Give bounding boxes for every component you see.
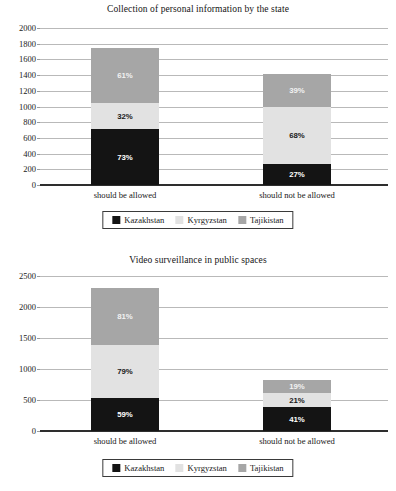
y-axis-tick-label: 1000	[19, 364, 36, 374]
legend-label: Kazakhstan	[124, 463, 164, 473]
chart-collection-of-personal-information: Collection of personal information by th…	[0, 0, 396, 245]
bar-segment[interactable]: 27%	[263, 164, 331, 185]
y-axis-tick	[37, 154, 40, 155]
bar-should-not-be-allowed[interactable]: 39%68%27%	[263, 74, 331, 185]
y-axis-tick	[37, 185, 40, 186]
legend-swatch-icon	[175, 216, 183, 224]
legend-swatch-icon	[112, 216, 120, 224]
legend-swatch-icon	[238, 464, 246, 472]
bar-segment[interactable]: 68%	[263, 107, 331, 165]
bar-segment[interactable]: 21%	[263, 393, 331, 407]
legend-label: Kyrgyzstan	[187, 463, 226, 473]
x-axis-category-label: should not be allowed	[259, 436, 335, 446]
y-axis-tick-label: 500	[23, 395, 36, 405]
legend-label: Tajikistan	[250, 463, 284, 473]
legend-swatch-icon	[112, 464, 120, 472]
y-axis-tick-label: 1500	[19, 333, 36, 343]
bar-should-be-allowed[interactable]: 61%32%73%	[91, 48, 159, 185]
y-axis-tick	[37, 91, 40, 92]
y-axis-tick	[37, 276, 40, 277]
chart-legend: KazakhstanKyrgyzstanTajikistan	[102, 211, 293, 229]
bar-should-not-be-allowed[interactable]: 19%21%41%	[263, 380, 331, 431]
y-axis-tick-label: 2000	[19, 23, 36, 33]
y-axis-tick-label: 400	[23, 149, 36, 159]
x-axis-category-label: should not be allowed	[259, 190, 335, 200]
y-axis-tick-label: 1200	[19, 86, 36, 96]
y-axis-tick-label: 0	[32, 180, 36, 190]
y-axis-tick	[37, 59, 40, 60]
bar-segment[interactable]: 61%	[91, 48, 159, 103]
chart-video-surveillance: Video surveillance in public spaces 2500…	[0, 245, 396, 491]
bar-segment[interactable]: 81%	[91, 288, 159, 344]
legend-item-kyrgyzstan[interactable]: Kyrgyzstan	[175, 463, 226, 473]
legend-label: Kyrgyzstan	[187, 215, 226, 225]
y-axis-tick-label: 200	[23, 164, 36, 174]
bar-segment[interactable]: 41%	[263, 407, 331, 431]
gridline	[40, 276, 388, 277]
chart-title: Video surveillance in public spaces	[0, 255, 396, 265]
y-axis-tick	[37, 307, 40, 308]
bar-segment[interactable]: 32%	[91, 103, 159, 129]
y-axis-tick	[37, 169, 40, 170]
y-axis-tick	[37, 75, 40, 76]
legend-item-kazakhstan[interactable]: Kazakhstan	[112, 463, 164, 473]
gridline	[40, 44, 388, 45]
y-axis-tick	[37, 44, 40, 45]
y-axis-tick-label: 800	[23, 117, 36, 127]
bar-should-be-allowed[interactable]: 81%79%59%	[91, 288, 159, 431]
y-axis-tick-label: 2500	[19, 271, 36, 281]
legend-label: Kazakhstan	[124, 215, 164, 225]
bar-segment[interactable]: 19%	[263, 380, 331, 394]
bar-segment[interactable]: 73%	[91, 129, 159, 185]
y-axis-tick	[37, 338, 40, 339]
y-axis-tick-label: 0	[32, 426, 36, 436]
legend-item-tajikistan[interactable]: Tajikistan	[238, 463, 284, 473]
legend-item-tajikistan[interactable]: Tajikistan	[238, 215, 284, 225]
y-axis-tick	[37, 138, 40, 139]
x-axis-category-label: should be allowed	[94, 190, 157, 200]
legend-swatch-icon	[175, 464, 183, 472]
legend-item-kazakhstan[interactable]: Kazakhstan	[112, 215, 164, 225]
y-axis-tick	[37, 369, 40, 370]
y-axis-tick	[37, 107, 40, 108]
legend-swatch-icon	[238, 216, 246, 224]
chart-legend: KazakhstanKyrgyzstanTajikistan	[102, 459, 293, 477]
bar-segment[interactable]: 39%	[263, 74, 331, 107]
x-axis-category-label: should be allowed	[94, 436, 157, 446]
y-axis-tick	[37, 28, 40, 29]
legend-label: Tajikistan	[250, 215, 284, 225]
y-axis-tick-label: 2000	[19, 302, 36, 312]
legend-item-kyrgyzstan[interactable]: Kyrgyzstan	[175, 215, 226, 225]
y-axis-tick-label: 1800	[19, 39, 36, 49]
gridline	[40, 28, 388, 29]
y-axis-tick	[37, 122, 40, 123]
y-axis-tick	[37, 431, 40, 432]
y-axis-tick	[37, 400, 40, 401]
y-axis-tick-label: 600	[23, 133, 36, 143]
plot-area: 2500200015001000500081%79%59%should be a…	[40, 276, 388, 431]
chart-title: Collection of personal information by th…	[0, 4, 396, 14]
y-axis-tick-label: 1600	[19, 54, 36, 64]
bar-segment[interactable]: 79%	[91, 345, 159, 398]
y-axis-tick-label: 1000	[19, 102, 36, 112]
y-axis-tick-label: 1400	[19, 70, 36, 80]
bar-segment[interactable]: 59%	[91, 398, 159, 431]
plot-area: 200018001600140012001000800600400200061%…	[40, 28, 388, 185]
